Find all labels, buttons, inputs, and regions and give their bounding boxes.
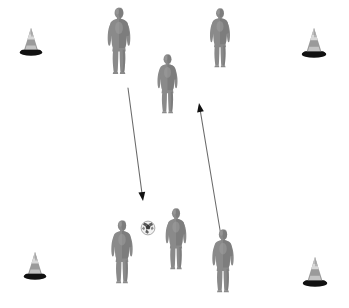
cone-top-left: [20, 28, 43, 56]
player-bottom-right: [212, 229, 233, 292]
ball-group: [141, 221, 155, 235]
players-group: [108, 7, 234, 292]
drill-diagram-canvas: [0, 0, 349, 308]
player-bottom-center: [166, 208, 187, 269]
player-top-right: [210, 8, 230, 67]
cone-bottom-left: [24, 252, 47, 280]
arrow-pass-down: [128, 88, 145, 201]
player-bottom-left: [111, 220, 132, 283]
player-top-left: [108, 7, 131, 74]
arrow-run-up: [197, 103, 221, 236]
player-center: [157, 54, 177, 113]
soccer-ball: [141, 221, 155, 235]
cone-bottom-right: [303, 257, 327, 287]
cone-top-right: [302, 28, 326, 58]
diagram-svg-layer: [0, 0, 349, 308]
